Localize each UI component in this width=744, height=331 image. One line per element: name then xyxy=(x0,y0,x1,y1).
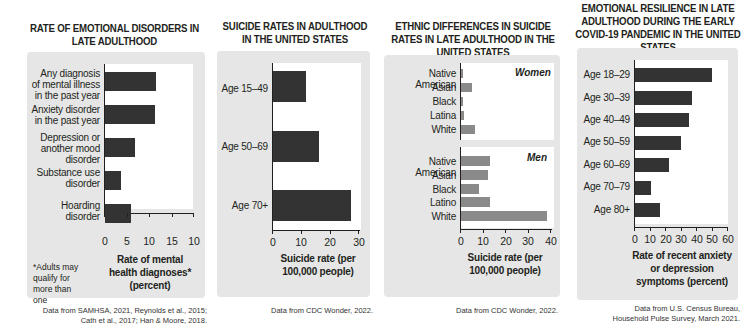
category-label: Age 30–39 xyxy=(580,92,630,103)
tick-label: 0 xyxy=(261,236,285,248)
bar xyxy=(461,211,547,221)
category-label: Latina xyxy=(388,110,456,121)
bar xyxy=(635,203,660,217)
bar xyxy=(461,184,479,194)
source-note: Data from U.S. Census Bureau, Household … xyxy=(600,304,740,324)
category-label: Anxiety disorder in the past year xyxy=(30,104,100,126)
facet-label-women: Women xyxy=(515,67,551,78)
x-axis xyxy=(272,230,360,231)
tick xyxy=(330,230,331,234)
category-label: Black xyxy=(388,184,456,195)
bar xyxy=(105,105,155,124)
source-note: Data from CDC Wonder, 2022. xyxy=(400,306,558,316)
tick-label: 0 xyxy=(449,235,473,247)
tick-label: 20 xyxy=(494,235,518,247)
tick-label: 5 xyxy=(115,235,139,247)
tick-label: 40 xyxy=(539,235,563,247)
tick xyxy=(149,213,150,217)
bar xyxy=(461,97,463,106)
x-axis-label: Suicide rate (per 100,000 people) xyxy=(270,252,366,278)
category-label: Black xyxy=(388,96,456,107)
tick-label: 0 xyxy=(93,235,117,247)
bar xyxy=(461,69,463,78)
bar xyxy=(273,71,306,102)
tick-label: 20 xyxy=(318,236,342,248)
tick xyxy=(681,227,682,231)
bar xyxy=(635,181,651,195)
chart-title: RATE OF EMOTIONAL DISORDERS IN LATE ADUL… xyxy=(29,22,199,48)
tick-label: 10 xyxy=(137,235,161,247)
bar xyxy=(273,131,319,162)
bar xyxy=(635,68,712,82)
category-label: Latino xyxy=(388,197,456,208)
tick-label: 15 xyxy=(160,235,184,247)
category-label: White xyxy=(388,211,456,222)
bar xyxy=(105,138,135,157)
chart-title: EMOTIONAL RESILIENCE IN LATE ADULTHOOD D… xyxy=(575,2,741,54)
chart-title: ETHNIC DIFFERENCES IN SUICIDE RATES IN L… xyxy=(386,20,561,59)
bar xyxy=(461,111,464,120)
bar xyxy=(635,136,681,150)
bar xyxy=(635,158,669,172)
tick xyxy=(665,227,666,231)
category-label: Age 40–49 xyxy=(580,114,630,125)
source-note: Data from CDC Wonder, 2022. xyxy=(215,306,373,316)
source-note: Data from SAMHSA, 2021, Reynolds et al.,… xyxy=(30,306,207,326)
tick xyxy=(172,213,173,217)
tick xyxy=(301,230,302,234)
category-label: Age 50–59 xyxy=(580,136,630,147)
category-label: Age 15–49 xyxy=(220,83,268,94)
bar xyxy=(105,72,156,91)
facet-label-men: Men xyxy=(527,152,547,163)
bar xyxy=(461,197,490,207)
category-label: Any diagnosis of mental illness in the p… xyxy=(30,68,100,101)
tick xyxy=(460,229,461,233)
tick xyxy=(696,227,697,231)
category-label: Age 70–79 xyxy=(580,181,630,192)
bar xyxy=(635,113,689,127)
chart-title: SUICIDE RATES IN ADULTHOOD IN THE UNITED… xyxy=(221,20,368,46)
x-axis-label: Suicide rate (per 100,000 people) xyxy=(455,251,555,277)
bar xyxy=(105,171,121,190)
tick-label: 10 xyxy=(289,236,313,248)
tick-label: 60 xyxy=(716,233,740,245)
category-label: Age 70+ xyxy=(220,200,268,211)
tick-label: 30 xyxy=(516,235,540,247)
tick-label: 10 xyxy=(471,235,495,247)
tick xyxy=(505,229,506,233)
tick xyxy=(712,227,713,231)
category-label: Age 60–69 xyxy=(580,159,630,170)
tick-label: 30 xyxy=(347,236,371,248)
category-label: Age 18–29 xyxy=(580,69,630,80)
x-axis-label: Rate of mental health diagnoses* (percen… xyxy=(102,253,198,292)
tick xyxy=(127,213,128,217)
x-axis-label: Rate of recent anxiety or depression sym… xyxy=(632,249,732,288)
category-label: Age 50–69 xyxy=(220,141,268,152)
tick xyxy=(550,229,551,233)
tick xyxy=(272,230,273,234)
category-label: White xyxy=(388,124,456,135)
x-axis xyxy=(460,229,552,230)
tick xyxy=(358,230,359,234)
tick xyxy=(528,229,529,233)
category-label: Hoarding disorder xyxy=(30,200,100,222)
tick xyxy=(193,213,194,217)
tick-label: 10 xyxy=(182,235,206,247)
bar xyxy=(461,125,475,134)
tick xyxy=(483,229,484,233)
category-label: Asian xyxy=(388,170,456,181)
category-label: Substance use disorder xyxy=(30,167,100,189)
bar xyxy=(461,156,490,166)
tick xyxy=(634,227,635,231)
tick xyxy=(650,227,651,231)
category-label: Asian xyxy=(388,82,456,93)
tick xyxy=(104,213,105,217)
bar xyxy=(461,83,472,92)
category-label: Depression or another mood disorder xyxy=(30,132,100,165)
category-label: Age 80+ xyxy=(580,204,630,215)
bar xyxy=(635,91,692,105)
bar xyxy=(461,170,488,180)
tick xyxy=(727,227,728,231)
footnote: *Adults may qualify for more than one xyxy=(33,262,85,306)
bar xyxy=(273,190,351,221)
